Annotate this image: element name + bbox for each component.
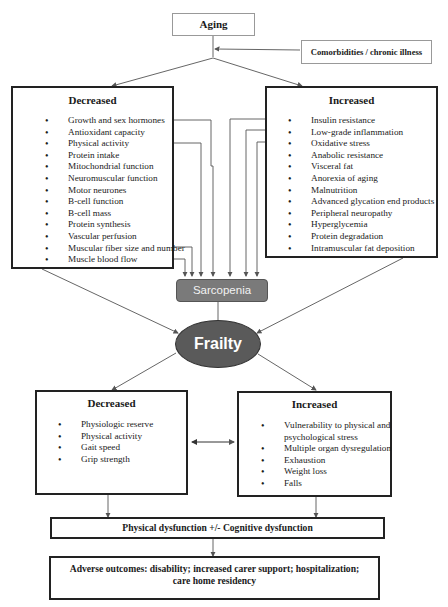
outcomes-line-1: Adverse outcomes: disability; increased …: [51, 563, 378, 575]
list-item: Motor neurones: [45, 185, 172, 197]
aging-node: Aging: [172, 13, 255, 36]
outcomes-line-2: care home residency: [51, 575, 378, 587]
list-item: Grip strength: [58, 454, 186, 466]
upper-decreased-list: Growth and sex hormones Antioxidant capa…: [45, 115, 172, 266]
list-item: Insulin resistance: [288, 115, 436, 127]
list-item: Growth and sex hormones: [45, 115, 172, 127]
list-item: Multiple organ dysregulation: [261, 443, 390, 455]
list-item: Protein degradation: [288, 231, 436, 243]
comorbidities-label: Comorbidities / chronic illness: [311, 47, 422, 57]
dysfunction-node: Physical dysfunction +/- Cognitive dysfu…: [50, 517, 385, 539]
frailty-node: Frailty: [175, 320, 261, 368]
list-item: Antioxidant capacity: [45, 127, 172, 139]
list-item: Anorexia of aging: [288, 173, 436, 185]
list-item: B-cell function: [45, 196, 172, 208]
list-item: Hyperglycemia: [288, 219, 436, 231]
list-item: Vascular perfusion: [45, 231, 172, 243]
list-item: Exhaustion: [261, 455, 390, 467]
comorbidities-node: Comorbidities / chronic illness: [301, 40, 432, 64]
upper-increased-box: Increased Insulin resistance Low-grade i…: [265, 86, 438, 258]
list-item: Mitochondrial function: [45, 161, 172, 173]
list-item: Advanced glycation end products: [288, 196, 436, 208]
list-item: Physiologic reserve: [58, 419, 186, 431]
upper-increased-title: Increased: [267, 94, 436, 106]
outcomes-node: Adverse outcomes: disability; increased …: [49, 556, 380, 600]
lower-decreased-title: Decreased: [37, 397, 186, 409]
list-item: Muscle blood flow: [45, 254, 172, 266]
list-item: B-cell mass: [45, 208, 172, 220]
list-item: Falls: [261, 478, 390, 490]
frailty-label: Frailty: [194, 335, 242, 352]
upper-decreased-title: Decreased: [13, 94, 172, 106]
list-item: Oxidative stress: [288, 138, 436, 150]
list-item: Neuromuscular function: [45, 173, 172, 185]
list-item: Intramuscular fat deposition: [288, 243, 436, 255]
lower-increased-box: Increased Vulnerability to physical and …: [237, 391, 392, 497]
aging-label: Aging: [199, 18, 227, 30]
lower-decreased-box: Decreased Physiologic reserve Physical a…: [35, 390, 188, 495]
list-item: Muscular fiber size and number: [45, 243, 172, 255]
list-item: Low-grade inflammation: [288, 127, 436, 139]
list-item: Malnutrition: [288, 185, 436, 197]
list-item: Gait speed: [58, 442, 186, 454]
list-item: Vulnerability to physical and: [261, 420, 390, 432]
lower-increased-list: Vulnerability to physical and psychologi…: [261, 420, 390, 490]
sarcopenia-label: Sarcopenia: [193, 284, 251, 296]
list-item: Protein intake: [45, 150, 172, 162]
list-item: Physical activity: [58, 431, 186, 443]
list-item: Anabolic resistance: [288, 150, 436, 162]
sarcopenia-node: Sarcopenia: [176, 279, 268, 302]
list-item: Protein synthesis: [45, 219, 172, 231]
lower-decreased-list: Physiologic reserve Physical activity Ga…: [58, 419, 186, 465]
list-item: Peripheral neuropathy: [288, 208, 436, 220]
dysfunction-label: Physical dysfunction +/- Cognitive dysfu…: [122, 522, 312, 533]
lower-increased-title: Increased: [239, 398, 390, 410]
upper-increased-list: Insulin resistance Low-grade inflammatio…: [288, 115, 436, 254]
list-item: Visceral fat: [288, 161, 436, 173]
upper-decreased-box: Decreased Growth and sex hormones Antiox…: [11, 86, 174, 269]
list-item-continuation: psychological stress: [261, 432, 390, 444]
list-item: Physical activity: [45, 138, 172, 150]
list-item: Weight loss: [261, 466, 390, 478]
